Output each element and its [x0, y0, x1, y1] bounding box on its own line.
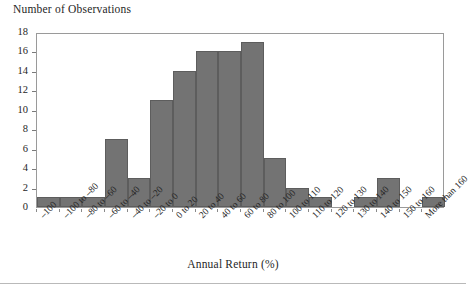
x-axis-tick-mark — [308, 209, 309, 212]
histogram-bar — [173, 71, 196, 207]
x-axis-tick-mark — [421, 209, 422, 212]
x-axis-tick-mark — [217, 209, 218, 212]
x-axis-tick-mark — [59, 209, 60, 212]
y-axis-tick-label: 8 — [23, 123, 28, 134]
bottom-rule — [0, 283, 466, 284]
x-axis-title: Annual Return (%) — [0, 258, 466, 270]
y-axis-title: Number of Observations — [13, 3, 131, 15]
y-axis-tick-label: 10 — [18, 104, 29, 115]
x-axis-tick-mark — [285, 209, 286, 212]
y-axis-tick-label: 12 — [18, 84, 29, 95]
x-axis-tick-mark — [149, 209, 150, 212]
x-axis-tick-mark — [104, 209, 105, 212]
x-axis-tick-mark — [263, 209, 264, 212]
x-axis-tick-mark — [353, 209, 354, 212]
x-axis-ticks: –100–100 to –80–80 to –60–60 to –40–40 t… — [36, 209, 444, 259]
y-axis-ticks: 024681012141618 — [0, 33, 36, 208]
histogram-bar — [241, 42, 264, 207]
histogram-bar — [196, 51, 219, 207]
x-axis-tick-mark — [331, 209, 332, 212]
x-axis-tick-mark — [127, 209, 128, 212]
y-axis-tick-label: 14 — [18, 65, 29, 76]
y-axis-tick-label: 18 — [18, 26, 29, 37]
histogram-bar — [218, 51, 241, 207]
x-axis-tick-mark — [240, 209, 241, 212]
x-axis-tick-mark — [195, 209, 196, 212]
plot-area — [36, 33, 444, 208]
y-axis-tick-label: 0 — [23, 201, 28, 212]
y-axis-tick-label: 16 — [18, 45, 29, 56]
x-axis-tick-mark — [172, 209, 173, 212]
y-axis-tick-label: 6 — [23, 143, 28, 154]
bars-layer — [37, 34, 443, 207]
x-axis-tick-mark — [399, 209, 400, 212]
y-axis-tick-label: 4 — [23, 162, 28, 173]
x-axis-tick-mark — [376, 209, 377, 212]
y-axis-tick-label: 2 — [23, 182, 28, 193]
x-axis-tick-mark — [81, 209, 82, 212]
x-axis-tick-mark — [36, 209, 37, 212]
